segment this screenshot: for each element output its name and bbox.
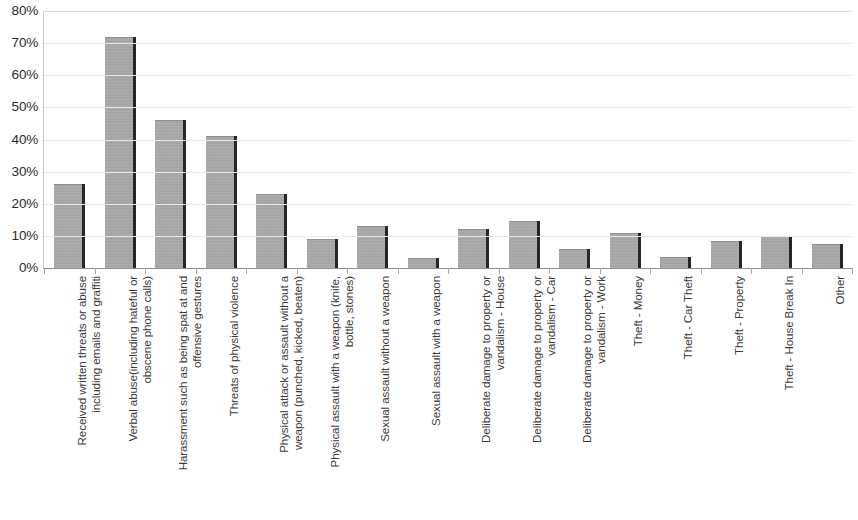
y-axis-tick-label: 40% <box>12 133 38 147</box>
x-axis-category-label-line: vandalism - House <box>493 276 506 370</box>
bar-edge-shadow <box>284 194 287 268</box>
x-axis-tick <box>499 268 500 274</box>
x-axis-category-label-line: Sexual assault with a weapon <box>429 276 442 426</box>
x-axis-ticks <box>44 268 853 274</box>
gridline <box>44 172 852 173</box>
x-axis-tick <box>196 268 197 274</box>
bar[interactable] <box>206 136 234 268</box>
x-axis-tick <box>549 268 550 274</box>
bar-edge-shadow <box>385 226 388 268</box>
bar[interactable] <box>761 236 789 268</box>
gridline <box>44 204 852 205</box>
x-axis-tick <box>398 268 399 274</box>
x-axis-labels: Received written threats or abuseincludi… <box>44 276 856 520</box>
x-axis-category-label-line: Deliberate damage to property or <box>580 276 593 443</box>
gridline <box>44 11 852 12</box>
y-axis-tick-label: 70% <box>12 36 38 50</box>
bar-edge-shadow <box>183 120 186 268</box>
bar-edge-shadow <box>587 249 590 268</box>
y-axis-tick-label: 0% <box>19 261 38 275</box>
gridline <box>44 75 852 76</box>
y-axis-tick-label: 10% <box>12 229 38 243</box>
bar[interactable] <box>307 239 335 268</box>
gridline <box>44 43 852 44</box>
y-axis-tick-label: 30% <box>12 165 38 179</box>
bar[interactable] <box>155 120 183 268</box>
x-axis-category-label-line: Deliberate damage to property or <box>479 276 492 443</box>
plot-area <box>44 11 852 268</box>
x-axis-category-label-line: Physical attack or assault without a <box>277 276 290 453</box>
x-axis-category-label-line: Other <box>833 276 846 305</box>
x-axis-category-label-line: Deliberate damage to property or <box>530 276 543 443</box>
x-axis-tick <box>650 268 651 274</box>
bar[interactable] <box>105 37 133 268</box>
bar-edge-shadow <box>739 241 742 268</box>
y-axis-tick-label: 80% <box>12 4 38 18</box>
x-axis-category-label-line: Theft - House Break In <box>782 276 795 390</box>
x-axis-tick <box>145 268 146 274</box>
x-axis-tick <box>852 268 853 274</box>
x-axis-tick <box>802 268 803 274</box>
x-axis-tick <box>751 268 752 274</box>
bar-edge-shadow <box>335 239 338 268</box>
x-axis-tick <box>297 268 298 274</box>
y-axis-tick-label: 60% <box>12 68 38 82</box>
x-axis-category-label-line: Theft - Money <box>631 276 644 346</box>
x-axis-category-label: Other <box>833 276 858 516</box>
x-axis-category-label-line: Theft - Property <box>732 276 745 355</box>
x-axis-category-label-line: Verbal abuse(including hateful or <box>126 276 139 442</box>
x-axis-category-label-line: vandalism - Car <box>544 276 557 356</box>
x-axis-category-label-line: bottle, stones) <box>342 276 355 347</box>
bar-edge-shadow <box>638 233 641 268</box>
x-axis-category-label-line: obscene phone calls) <box>140 276 153 384</box>
gridline <box>44 107 852 108</box>
x-axis-category-label-line: offensive gestures <box>190 276 203 368</box>
bar[interactable] <box>357 226 385 268</box>
x-axis-tick <box>448 268 449 274</box>
x-axis-category-label-line: Harassment such as being spat at and <box>176 276 189 470</box>
bar[interactable] <box>54 184 82 268</box>
x-axis-tick <box>600 268 601 274</box>
bar[interactable] <box>559 249 587 268</box>
bar-edge-shadow <box>133 37 136 268</box>
x-axis-category-label-line: Received written threats or abuse <box>75 276 88 445</box>
gridline <box>44 140 852 141</box>
bar-edge-shadow <box>840 244 843 268</box>
bar-edge-shadow <box>234 136 237 268</box>
y-axis-tick-label: 20% <box>12 197 38 211</box>
bar-chart: 80%70%60%50%40%30%20%10%0% Received writ… <box>0 0 858 520</box>
x-axis-category-label-line: Sexual assault without a weapon <box>378 276 391 442</box>
bar[interactable] <box>256 194 284 268</box>
bar[interactable] <box>660 257 688 268</box>
bar-edge-shadow <box>82 184 85 268</box>
x-axis-tick <box>347 268 348 274</box>
x-axis-category-label-line: weapon (punched, kicked, beaten) <box>291 276 304 450</box>
gridline <box>44 236 852 237</box>
x-axis-tick <box>44 268 45 274</box>
bar[interactable] <box>711 241 739 268</box>
x-axis-category-label-line: Physical assault with a weapon (knife, <box>328 276 341 467</box>
bar-edge-shadow <box>537 221 540 268</box>
bar-edge-shadow <box>789 236 792 268</box>
x-axis-tick <box>701 268 702 274</box>
bar[interactable] <box>610 233 638 268</box>
bar[interactable] <box>408 258 436 268</box>
bar-edge-shadow <box>436 258 439 268</box>
bar[interactable] <box>509 221 537 268</box>
x-axis-tick <box>95 268 96 274</box>
bar-edge-shadow <box>688 257 691 268</box>
x-axis-tick <box>246 268 247 274</box>
x-axis-category-label-line: Theft - Car Theft <box>681 276 694 359</box>
x-axis-category-label-line: vandalism - Work <box>594 276 607 364</box>
y-axis-tick-label: 50% <box>12 100 38 114</box>
bar[interactable] <box>812 244 840 268</box>
y-axis-labels: 80%70%60%50%40%30%20%10%0% <box>0 0 42 280</box>
x-axis-category-label-line: Threats of physical violence <box>227 276 240 416</box>
x-axis-category-label-line: including emails and graffiti <box>89 276 102 413</box>
